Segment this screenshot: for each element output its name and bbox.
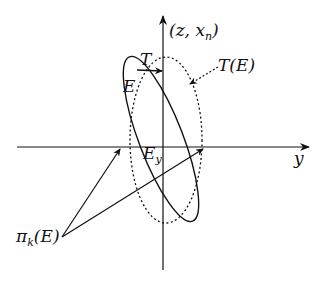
projection-label-text: π [16, 226, 27, 246]
transformed-set-pointer [190, 67, 218, 84]
set-label: E [123, 78, 135, 95]
intersection-label-sub: y [155, 153, 161, 166]
projection-label-arg: (E) [34, 226, 60, 246]
projection-arrow-right [62, 149, 203, 237]
transform-arrow [137, 70, 162, 71]
projection-arrow-left [62, 149, 120, 237]
intersection-label: Ey [143, 145, 162, 165]
transform-label: T [140, 51, 151, 68]
projection-label-sub: k [27, 236, 34, 249]
intersection-label-text: E [143, 143, 155, 163]
vertical-axis-label: (z, xn) [169, 22, 219, 42]
horizontal-axis-label: y [294, 150, 304, 167]
projection-label: πk(E) [16, 228, 60, 248]
vertical-axis-label-sub: n [205, 30, 212, 43]
vertical-axis-label-close: ) [212, 20, 219, 40]
transformed-set-label: T(E) [218, 57, 255, 74]
vertical-axis-label-text: (z, x [169, 20, 205, 40]
